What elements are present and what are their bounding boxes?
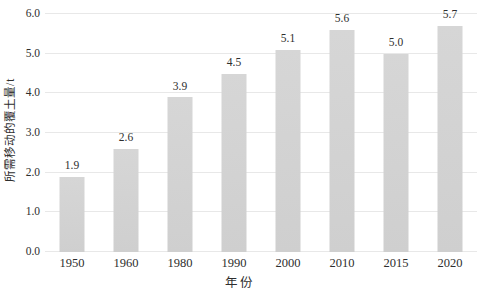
bar-slot-2020: 5.7: [423, 14, 477, 252]
bar-2000: [276, 50, 301, 252]
y-tick-label: 3.0: [26, 127, 40, 139]
y-tick-label: 0.0: [26, 246, 40, 258]
x-tick-label-2015: 2015: [369, 257, 423, 270]
y-tick-label: 2.0: [26, 167, 40, 179]
y-tick-label: 6.0: [26, 8, 40, 20]
bar-value-label-1980: 3.9: [153, 81, 207, 93]
x-tick-label-2010: 2010: [315, 257, 369, 270]
bar-slot-1990: 4.5: [207, 14, 261, 252]
bar-1960: [114, 149, 139, 252]
bar-slot-1960: 2.6: [99, 14, 153, 252]
x-tick-label-1990: 1990: [207, 257, 261, 270]
x-axis-title: 年份: [0, 277, 480, 290]
bar-value-label-1950: 1.9: [45, 160, 99, 172]
y-axis-tick-labels: 0.01.02.03.04.05.06.0: [0, 14, 40, 252]
x-tick-label-1980: 1980: [153, 257, 207, 270]
bar-slot-1950: 1.9: [45, 14, 99, 252]
x-tick-label-1950: 1950: [45, 257, 99, 270]
bar-2020: [438, 26, 463, 252]
x-tick-label-2020: 2020: [423, 257, 477, 270]
bar-value-label-2010: 5.6: [315, 13, 369, 25]
plot-area: 1.92.63.94.55.15.65.05.7: [45, 14, 477, 252]
bar-2010: [330, 30, 355, 252]
x-axis-tick-labels: 19501960198019902000201020152020: [45, 257, 477, 270]
x-tick-label-2000: 2000: [261, 257, 315, 270]
bar-slot-1980: 3.9: [153, 14, 207, 252]
bar-slot-2015: 5.0: [369, 14, 423, 252]
bar-1950: [60, 177, 85, 252]
bar-slot-2010: 5.6: [315, 14, 369, 252]
bar-value-label-2015: 5.0: [369, 37, 423, 49]
bar-series: 1.92.63.94.55.15.65.05.7: [45, 14, 477, 252]
bar-chart-figure: 所需移动的覆土量/t 0.01.02.03.04.05.06.0 1.92.63…: [0, 0, 480, 296]
y-tick-label: 4.0: [26, 88, 40, 100]
bar-value-label-1990: 4.5: [207, 57, 261, 69]
y-tick-label: 1.0: [26, 207, 40, 219]
bar-2015: [384, 54, 409, 252]
bar-slot-2000: 5.1: [261, 14, 315, 252]
y-tick-label: 5.0: [26, 48, 40, 60]
bar-value-label-1960: 2.6: [99, 132, 153, 144]
bar-value-label-2000: 5.1: [261, 33, 315, 45]
bar-1980: [168, 97, 193, 252]
bar-1990: [222, 74, 247, 253]
bar-value-label-2020: 5.7: [423, 9, 477, 21]
x-tick-label-1960: 1960: [99, 257, 153, 270]
